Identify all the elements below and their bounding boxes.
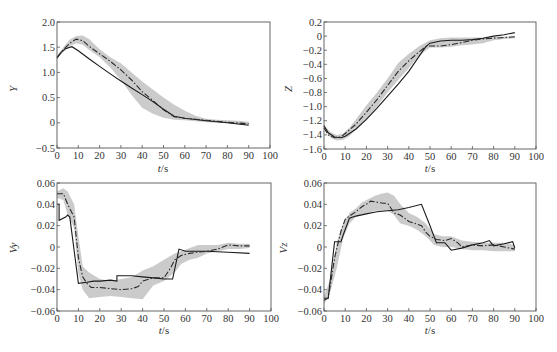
y-tick-label: 2.0 [42, 17, 55, 28]
x-tick-label: 50 [425, 151, 436, 162]
x-tick-label: 70 [201, 150, 212, 161]
y-tick-label: −0.02 [31, 263, 55, 274]
x-tick-label: 0 [321, 313, 326, 324]
x-tick-label: 20 [361, 151, 372, 162]
y-tick-label: −0.06 [31, 306, 55, 317]
uncertainty-band [324, 193, 515, 305]
x-tick-label: 20 [361, 313, 372, 324]
y-tick-label: −1.2 [303, 115, 322, 126]
x-tick-label: 30 [382, 151, 393, 162]
y-tick-label: 0.02 [304, 220, 322, 231]
confidence-band [57, 36, 249, 125]
x-tick-label: 10 [340, 313, 351, 324]
x-tick-label: 60 [446, 151, 457, 162]
y-tick-label: −0.04 [31, 284, 56, 295]
y-tick-label: 0.2 [309, 17, 322, 28]
x-tick-label: 50 [425, 313, 436, 324]
y-tick-label: −0.04 [298, 284, 323, 295]
x-tick-label: 80 [488, 151, 499, 162]
y-tick-label: 0.04 [37, 199, 56, 210]
y-tick-label: 1.0 [42, 67, 55, 78]
x-tick-label: 0 [54, 150, 59, 161]
x-tick-label: 40 [137, 313, 148, 324]
y-tick-label: −0.02 [298, 263, 322, 274]
y-axis-label: Y [7, 84, 19, 92]
x-tick-label: 70 [467, 313, 478, 324]
x-tick-label: 90 [243, 150, 254, 161]
axes-frame: 0102030405060708090100−0.500.51.01.52.0 [36, 17, 278, 162]
x-tick-label: 90 [244, 313, 255, 324]
x-axis-label: t/s [425, 162, 435, 174]
x-tick-label: 50 [158, 150, 169, 161]
x-tick-label: 100 [263, 313, 279, 324]
x-tick-label: 100 [528, 151, 544, 162]
y-tick-label: −0.5 [36, 143, 55, 154]
y-tick-label: −0.4 [303, 59, 323, 70]
x-tick-label: 50 [159, 313, 170, 324]
y-tick-label: 0.04 [304, 199, 323, 210]
x-tick-label: 80 [488, 313, 499, 324]
y-tick-label: −0.2 [303, 45, 322, 56]
confidence-band [324, 193, 515, 305]
x-tick-label: 10 [73, 150, 84, 161]
x-tick-label: 80 [223, 313, 234, 324]
y-tick-label: 0 [317, 242, 322, 253]
x-tick-label: 30 [116, 313, 127, 324]
y-tick-label: 0.06 [37, 178, 55, 189]
y-axis-label: Vz [277, 242, 289, 254]
x-tick-label: 40 [404, 151, 415, 162]
x-tick-label: 60 [180, 313, 191, 324]
x-tick-label: 60 [446, 313, 457, 324]
panel-z-position: 0102030405060708090100−1.6−1.4−1.2−1.0−0… [282, 17, 544, 175]
panel-vy-velocity: 0102030405060708090100−0.06−0.04−0.0200.… [7, 178, 279, 337]
x-tick-label: 90 [510, 151, 521, 162]
y-tick-label: −1.4 [303, 129, 323, 140]
x-axis-label: t/s [159, 324, 169, 336]
panel-vz-velocity: 0102030405060708090100−0.06−0.04−0.0200.… [277, 178, 544, 337]
x-tick-label: 90 [510, 313, 521, 324]
y-tick-label: −0.8 [303, 87, 322, 98]
y-tick-label: 0 [50, 117, 55, 128]
x-tick-label: 80 [222, 150, 233, 161]
y-tick-label: 0.5 [42, 92, 55, 103]
confidence-band [324, 36, 515, 140]
y-tick-label: 0.02 [37, 220, 55, 231]
x-axis-label: t/s [425, 324, 435, 336]
x-tick-label: 60 [180, 150, 191, 161]
uncertainty-band [324, 36, 515, 140]
y-tick-label: −1.6 [303, 144, 322, 155]
x-tick-label: 70 [202, 313, 213, 324]
x-tick-label: 20 [95, 313, 106, 324]
y-tick-label: −1.0 [303, 101, 322, 112]
x-tick-label: 40 [137, 150, 148, 161]
y-tick-label: 1.5 [42, 42, 55, 53]
x-tick-label: 40 [404, 313, 415, 324]
panel-y-position: 0102030405060708090100−0.500.51.01.52.0 … [7, 17, 278, 175]
x-tick-label: 100 [528, 313, 544, 324]
x-axis-label: t/s [158, 162, 168, 174]
x-tick-label: 10 [340, 151, 351, 162]
y-tick-label: 0 [317, 31, 322, 42]
y-tick-label: 0 [50, 242, 55, 253]
uncertainty-band [57, 36, 249, 125]
x-tick-label: 0 [321, 151, 326, 162]
x-tick-label: 100 [262, 150, 278, 161]
y-axis-label: Vy [7, 243, 19, 254]
x-tick-label: 10 [73, 313, 84, 324]
x-tick-label: 30 [116, 150, 127, 161]
y-tick-label: −0.6 [303, 73, 322, 84]
x-tick-label: 0 [54, 313, 59, 324]
x-tick-label: 20 [94, 150, 105, 161]
x-tick-label: 30 [382, 313, 393, 324]
y-axis-label: Z [282, 85, 294, 92]
x-tick-label: 70 [467, 151, 478, 162]
y-tick-label: −0.06 [298, 306, 322, 317]
y-tick-label: 0.06 [304, 178, 322, 189]
figure-canvas: 0102030405060708090100−0.500.51.01.52.0 … [0, 0, 557, 352]
